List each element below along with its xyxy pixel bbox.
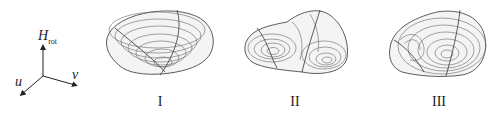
surface-panel-II: II: [232, 0, 360, 117]
panel-label-II: II: [280, 94, 310, 110]
surface-panel-I: I: [95, 0, 230, 117]
axis-arrows-icon: [0, 0, 100, 117]
axis-triad: Hrot u v: [0, 0, 100, 117]
surface-panel-III: III: [362, 0, 498, 117]
panel-label-I: I: [145, 94, 175, 110]
v-axis-label: v: [72, 67, 78, 83]
h-rot-axis-label: Hrot: [38, 28, 57, 46]
u-axis-label: u: [15, 74, 22, 90]
panel-label-III: III: [424, 94, 454, 110]
